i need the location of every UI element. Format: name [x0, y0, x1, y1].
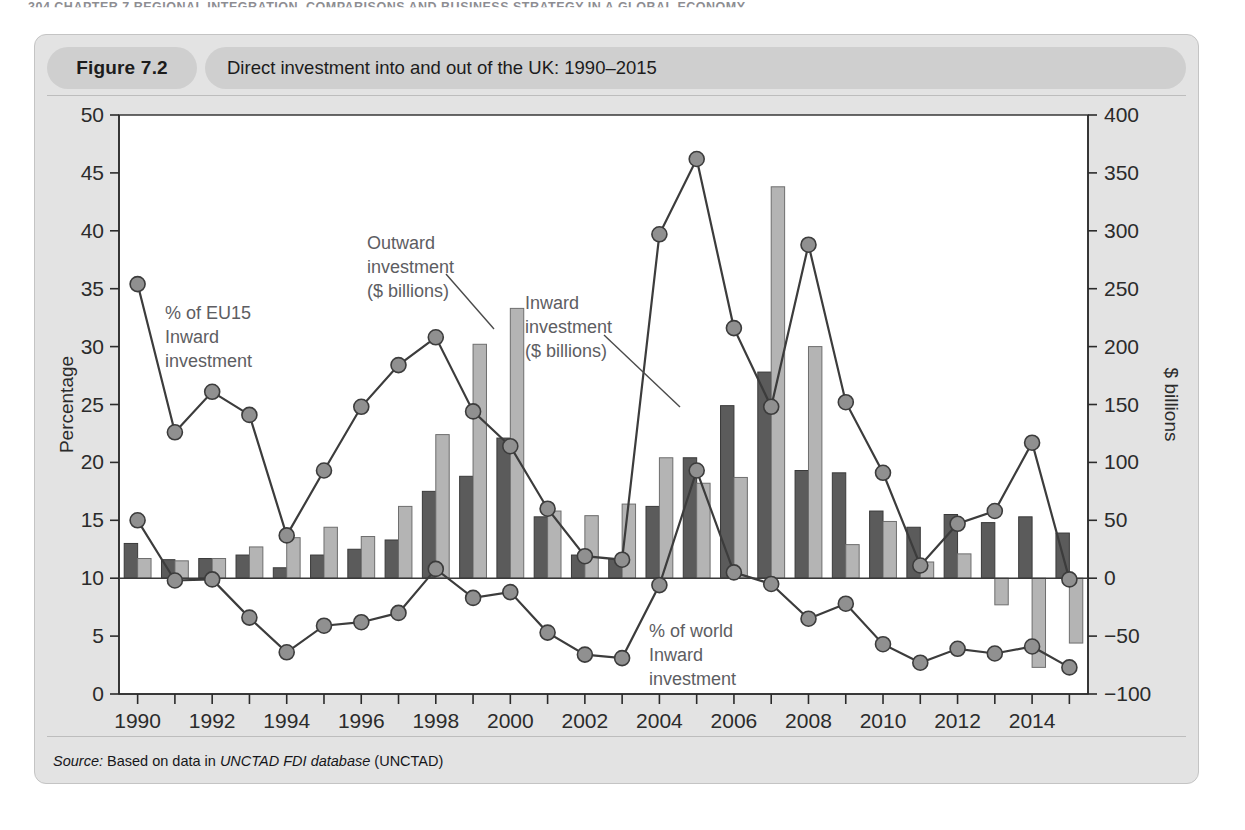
bar-inward-investment [273, 568, 286, 578]
x-axis-tick-label: 1990 [114, 709, 161, 732]
marker-world-share [876, 637, 891, 652]
x-axis-tick-label: 2014 [1009, 709, 1056, 732]
marker-eu15-share [726, 321, 741, 336]
marker-world-share [577, 647, 592, 662]
annotation-inward-investment: investment [525, 317, 612, 337]
marker-world-share [913, 655, 928, 670]
annotation-inward-investment: ($ billions) [525, 341, 607, 361]
marker-world-share [652, 578, 667, 593]
y-axis-tick-label: 35 [81, 277, 104, 300]
y-axis-tick-label: 40 [81, 219, 104, 242]
x-axis-tick-label: 1996 [338, 709, 385, 732]
marker-world-share [167, 573, 182, 588]
bar-outward-investment [659, 458, 672, 578]
x-axis-tick-label: 2000 [487, 709, 534, 732]
marker-eu15-share [540, 501, 555, 516]
y2-axis-tick-label: 200 [1104, 335, 1139, 358]
source-divider [47, 736, 1186, 737]
bar-outward-investment [1069, 578, 1082, 643]
marker-world-share [1025, 639, 1040, 654]
y2-axis-tick-label: 0 [1104, 566, 1116, 589]
marker-eu15-share [354, 399, 369, 414]
y2-axis-tick-label: 350 [1104, 161, 1139, 184]
chart-plot-area: 05101520253035404550−100−500501001502002… [47, 97, 1186, 733]
bar-outward-investment [361, 537, 374, 579]
marker-world-share [726, 565, 741, 580]
bar-inward-investment [870, 511, 883, 578]
y-axis-tick-label: 10 [81, 566, 104, 589]
bar-outward-investment [585, 516, 598, 579]
annotation-inward-investment: Inward [525, 293, 579, 313]
bar-outward-investment [883, 521, 896, 578]
y2-axis-tick-label: 400 [1104, 103, 1139, 126]
bar-inward-investment [832, 473, 845, 578]
bar-inward-investment [534, 517, 547, 578]
chart-svg: 05101520253035404550−100−500501001502002… [47, 97, 1188, 737]
marker-eu15-share [950, 516, 965, 531]
x-axis-tick-label: 2008 [785, 709, 832, 732]
marker-world-share [205, 572, 220, 587]
y-axis-tick-label: 25 [81, 393, 104, 416]
marker-world-share [354, 615, 369, 630]
y-axis-tick-label: 30 [81, 335, 104, 358]
marker-world-share [391, 605, 406, 620]
bar-outward-investment [548, 511, 561, 578]
y2-axis-tick-label: −50 [1104, 624, 1140, 647]
marker-eu15-share [577, 549, 592, 564]
marker-world-share [689, 463, 704, 478]
marker-eu15-share [876, 465, 891, 480]
marker-eu15-share [279, 528, 294, 543]
marker-world-share [987, 646, 1002, 661]
y2-axis-tick-label: 100 [1104, 450, 1139, 473]
y-axis-tick-label: 15 [81, 508, 104, 531]
x-axis-tick-label: 1998 [412, 709, 459, 732]
marker-eu15-share [1062, 572, 1077, 587]
bar-inward-investment [124, 543, 137, 578]
x-axis-tick-label: 2012 [934, 709, 981, 732]
marker-eu15-share [317, 463, 332, 478]
bar-outward-investment [324, 527, 337, 578]
marker-world-share [1062, 660, 1077, 675]
marker-eu15-share [913, 558, 928, 573]
marker-world-share [838, 596, 853, 611]
figure-number-badge: Figure 7.2 [47, 47, 197, 89]
annotation-eu15-share: % of EU15 [165, 303, 251, 323]
bar-inward-investment [460, 476, 473, 578]
marker-eu15-share [130, 277, 145, 292]
bar-inward-investment [1019, 517, 1032, 578]
marker-eu15-share [167, 425, 182, 440]
marker-world-share [540, 625, 555, 640]
bar-inward-investment [795, 471, 808, 579]
annotation-outward-investment: ($ billions) [367, 281, 449, 301]
annotation-outward-investment: investment [367, 257, 454, 277]
marker-world-share [279, 645, 294, 660]
y2-axis-title: $ billions [1161, 368, 1182, 442]
y2-axis-tick-label: 150 [1104, 393, 1139, 416]
annotation-world-share: Inward [649, 645, 703, 665]
x-axis-tick-label: 2004 [636, 709, 683, 732]
marker-eu15-share [652, 227, 667, 242]
bar-outward-investment [436, 435, 449, 579]
marker-eu15-share [466, 404, 481, 419]
bar-inward-investment [646, 506, 659, 578]
marker-world-share [242, 610, 257, 625]
bar-outward-investment [958, 554, 971, 578]
source-text-b: (UNCTAD) [370, 753, 443, 769]
marker-eu15-share [764, 399, 779, 414]
x-axis-tick-label: 1994 [263, 709, 310, 732]
y-axis-tick-label: 20 [81, 450, 104, 473]
marker-world-share [428, 561, 443, 576]
bar-outward-investment [473, 344, 486, 578]
bar-outward-investment [399, 506, 412, 578]
plot-background [119, 115, 1088, 694]
y2-axis-tick-label: 250 [1104, 277, 1139, 300]
marker-eu15-share [1025, 435, 1040, 450]
x-axis-tick-label: 2006 [711, 709, 758, 732]
annotation-outward-investment: Outward [367, 233, 435, 253]
marker-eu15-share [391, 358, 406, 373]
marker-eu15-share [987, 504, 1002, 519]
bar-inward-investment [497, 438, 510, 578]
annotation-world-share: % of world [649, 621, 733, 641]
marker-eu15-share [205, 384, 220, 399]
marker-eu15-share [615, 552, 630, 567]
